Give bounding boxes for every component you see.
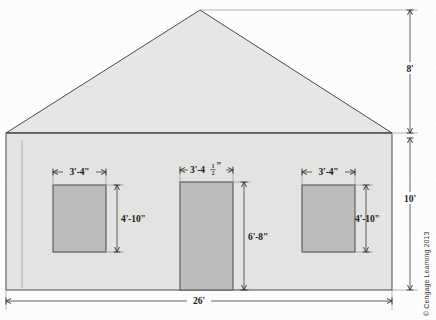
- copyright-credit: © Cengage Learning 2013: [423, 231, 431, 316]
- overall-width-label: 26': [193, 296, 205, 306]
- credit-group: © Cengage Learning 2013: [423, 231, 431, 316]
- left-window-height-label: 4'-10": [121, 214, 146, 224]
- right-window-width-label: 3'-4": [318, 167, 338, 177]
- door: [180, 182, 233, 290]
- door-width-inch-mark: ”: [217, 160, 222, 170]
- door-width-label-whole: 3'-4: [190, 165, 205, 175]
- right-window: [302, 185, 355, 252]
- door-width-fraction-numerator: 1: [212, 163, 215, 169]
- wall-height-label: 10': [404, 194, 416, 204]
- left-window: [53, 185, 106, 252]
- elevation-svg: 3'-4" 4'-10" 3'-4 1 2 ” 6'-8": [0, 0, 436, 320]
- left-window-width-label: 3'-4": [69, 167, 89, 177]
- door-height-label: 6'-8": [248, 232, 268, 242]
- door-width-fraction-denominator: 2: [212, 170, 215, 176]
- right-window-height-label: 4'-10": [355, 214, 380, 224]
- roof-rise-label: 8': [406, 64, 413, 74]
- elevation-drawing: 3'-4" 4'-10" 3'-4 1 2 ” 6'-8": [0, 0, 436, 320]
